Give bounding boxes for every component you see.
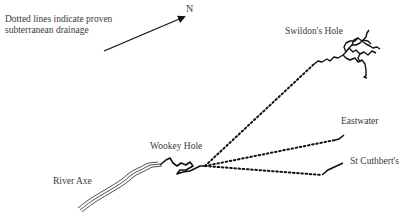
drainage-lines [205, 65, 335, 175]
label-wookey-hole: Wookey Hole [150, 141, 202, 152]
drainage-line-swildons [205, 65, 313, 166]
label-st-cuthberts: St Cuthbert's [350, 156, 399, 167]
drainage-line-stcuthberts [205, 166, 322, 175]
cave-drainage-diagram: Dotted lines indicate proven subterranea… [0, 0, 412, 221]
north-label: N [186, 3, 193, 15]
river-axe-channel [78, 162, 162, 212]
stcuthberts-passage [322, 163, 343, 175]
wookey-hole-passage [160, 158, 205, 174]
eastwater-passage [335, 135, 344, 140]
legend-note: Dotted lines indicate proven subterranea… [5, 14, 145, 36]
label-eastwater: Eastwater [341, 116, 378, 127]
label-swildons-hole: Swildon's Hole [285, 26, 343, 37]
swildons-hole-passages [313, 30, 380, 78]
label-river-axe: River Axe [53, 176, 92, 187]
drainage-line-eastwater [205, 140, 335, 166]
